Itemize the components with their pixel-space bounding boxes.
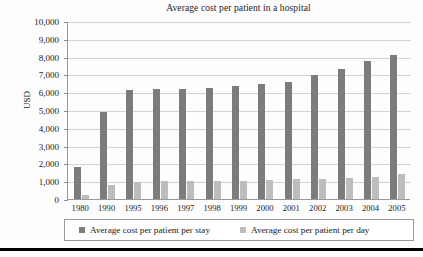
bar-group [279,21,305,199]
bar [364,61,371,199]
y-axis-label: USD [22,80,32,120]
legend-label-day: Average cost per patient per day [251,225,369,235]
x-tick-label: 1997 [173,203,199,213]
x-tick-label: 2003 [331,203,357,213]
bar [319,179,326,199]
x-tick-label: 1980 [67,203,93,213]
x-tick-label: 2002 [305,203,331,213]
bar [372,177,379,199]
bar-group [94,21,120,199]
x-tick-label: 2004 [357,203,383,213]
bar [74,167,81,199]
bar [206,88,213,199]
legend-item-day[interactable]: Average cost per patient per day [240,225,369,235]
bar-group [121,21,147,199]
bar [338,69,345,199]
bar [82,195,89,199]
bar-group [147,21,173,199]
bar-group [200,21,226,199]
x-tick-label: 2000 [252,203,278,213]
y-tick-label: 6,000 [39,88,59,98]
bar-group [385,21,411,199]
bar-groups [68,21,411,199]
legend-item-stay[interactable]: Average cost per patient per stay [79,225,210,235]
bar [108,185,115,199]
legend-label-stay: Average cost per patient per stay [90,225,210,235]
chart-title: Average cost per patient in a hospital [67,3,410,13]
bar [179,89,186,199]
x-tick-label: 2005 [384,203,410,213]
y-tick-mark [64,200,68,201]
bar [134,182,141,199]
bar [161,181,168,199]
bar [311,75,318,199]
chart-figure: Average cost per patient in a hospital U… [0,0,423,257]
bar [153,89,160,199]
bar-group [68,21,94,199]
bar [346,178,353,199]
x-tick-label: 2001 [278,203,304,213]
bar [126,90,133,199]
y-tick-label: 3,000 [39,142,59,152]
y-tick-label: 1,000 [39,177,59,187]
bar-group [332,21,358,199]
legend-swatch-stay-icon [79,227,85,233]
chart-legend: Average cost per patient per stay Averag… [64,219,414,241]
y-tick-label: 4,000 [39,124,59,134]
bar-group [306,21,332,199]
bar-group [253,21,279,199]
x-tick-label: 1999 [225,203,251,213]
y-tick-label: 2,000 [39,159,59,169]
x-tick-label: 1996 [146,203,172,213]
x-tick-label: 1995 [120,203,146,213]
bar [390,55,397,199]
bar [398,174,405,199]
bar [285,82,292,199]
legend-swatch-day-icon [240,227,246,233]
y-tick-label: 5,000 [39,106,59,116]
y-tick-label: 9,000 [39,35,59,45]
bar-group [174,21,200,199]
bar [258,84,265,199]
bar [214,181,221,199]
bar [240,181,247,199]
bar [293,179,300,199]
y-tick-label: 8,000 [39,53,59,63]
bar-group [226,21,252,199]
y-tick-label: 10,000 [34,17,59,27]
x-axis-labels: 1980199019951996199719981999200020012002… [67,203,410,213]
bar [187,181,194,199]
y-tick-label: 0 [55,195,60,205]
bar [266,180,273,199]
bottom-divider [0,248,423,251]
x-tick-label: 1990 [93,203,119,213]
x-tick-label: 1998 [199,203,225,213]
bar [232,86,239,199]
y-tick-label: 7,000 [39,70,59,80]
bar [100,112,107,199]
plot-area: 10,0009,0008,0007,0006,0005,0004,0003,00… [67,22,410,200]
bar-group [358,21,384,199]
